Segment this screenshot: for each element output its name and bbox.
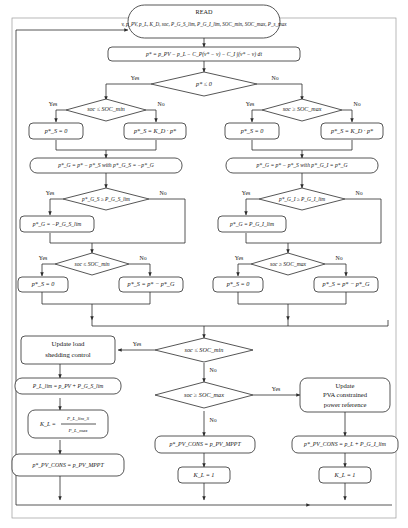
decision-soc-min-left-label: soc ≤ SOC_min: [87, 106, 125, 112]
node-pg-lim-right[interactable]: p*_G = P_G_I_lim: [218, 216, 286, 232]
node-ps-zero-right-2[interactable]: p*_S = 0: [213, 277, 263, 292]
node-ps-diff-right-2[interactable]: p*_S = p* − p*_G: [314, 277, 378, 292]
update-pva-line1: Update: [335, 382, 354, 389]
node-ps-kd-left[interactable]: p*_S = K_D · p*: [124, 123, 186, 139]
node-ps-diff-left-2[interactable]: p*_S = p* − p*_G: [119, 277, 183, 292]
pg-lim-left-text: p*_G = −P_G_S_lim: [32, 221, 82, 227]
decision-soc-min-bottom-label: soc ≤ SOC_min: [185, 346, 224, 353]
node-pg-lim-left[interactable]: p*_G = −P_G_S_lim: [20, 216, 94, 232]
pl-lim-text: P_L_lim = p_PV + P_G_S_lim: [32, 383, 104, 389]
decision-soc-max-right-2-label: soc ≥ SOC_max: [270, 261, 307, 267]
update-pva-line3: power reference: [324, 401, 367, 408]
label-yes-pg-lim-right: Yes: [242, 190, 251, 196]
decision-pstar-le-zero[interactable]: p* ≤ 0: [151, 72, 257, 96]
node-update-load-shedding[interactable]: Update load shedding control: [21, 336, 115, 364]
decision-soc-min-left-2-label: soc ≤ SOC_min: [74, 261, 109, 267]
ps-zero-right-2-text: p*_S = 0: [226, 280, 251, 287]
decision-soc-min-left-2[interactable]: soc ≤ SOC_min: [55, 253, 129, 275]
read-title: READ: [196, 8, 213, 15]
node-kl-one-mid[interactable]: K_L = 1: [178, 467, 230, 483]
decision-pg-lim-right[interactable]: p*_G_I ≥ P_G_I_lim: [259, 188, 345, 210]
label-no-soc-max-right-2: No: [335, 255, 342, 261]
ps-zero-left-text: p*_S = 0: [44, 127, 69, 134]
label-no-pg-lim-right: No: [355, 190, 362, 196]
update-load-line2: shedding control: [45, 351, 91, 358]
node-ps-zero-right[interactable]: p*_S = 0: [225, 123, 279, 139]
ps-zero-right-text: p*_S = 0: [240, 127, 265, 134]
node-kl-fraction[interactable]: K_L = P_L_lim_S P_L_max: [28, 410, 108, 438]
label-no-soc-max-right: No: [353, 101, 360, 107]
kl-one-mid-text: K_L = 1: [193, 471, 215, 478]
label-yes-pstar: Yes: [131, 75, 140, 81]
ps-kd-left-text: p*_S = K_D · p*: [133, 127, 177, 134]
kl-lhs: K_L =: [39, 421, 56, 427]
kl-numerator: P_L_lim_S: [66, 416, 90, 421]
decision-soc-max-bottom-label: soc ≥ SOC_max: [184, 391, 224, 398]
update-load-line1: Update load: [51, 340, 85, 347]
label-no-soc-min-left: No: [157, 101, 164, 107]
ppv-cons-right-text: p*_PV_CONS = p_L + P_G_I_lim: [303, 441, 386, 447]
label-no-soc-min-left-2: No: [139, 255, 146, 261]
label-yes-pg-lim-left: Yes: [46, 190, 55, 196]
node-ps-zero-left-2[interactable]: p*_S = 0: [18, 277, 68, 292]
decision-pg-lim-left-label: p*_G_S ≥ P_G_S_lim: [81, 196, 130, 202]
label-no-soc-min-bottom: No: [209, 367, 216, 373]
ps-diff-left-2-text: p*_S = p* − p*_G: [127, 280, 175, 287]
decision-soc-max-right-label: soc ≥ SOC_max: [283, 106, 322, 112]
ps-zero-left-2-text: p*_S = 0: [31, 280, 56, 287]
decision-soc-max-bottom[interactable]: soc ≥ SOC_max: [155, 382, 253, 408]
node-ppv-cons-left[interactable]: p*_PV_CONS = p_PV_MPPT: [12, 454, 124, 476]
decision-pstar-label: p* ≤ 0: [195, 80, 213, 87]
flowchart-canvas: READ v, p_PV, p_L, K_D, soc, P_G_S_lim, …: [0, 0, 408, 528]
label-yes-soc-min-left-2: Yes: [39, 255, 48, 261]
node-kl-one-right[interactable]: K_L = 1: [319, 467, 371, 483]
node-pstar-equation[interactable]: p* = p_PV − p_L − C_P(v* − v) − C_I ∫(v*…: [108, 47, 300, 61]
kl-one-right-text: K_L = 1: [334, 471, 356, 478]
ppv-cons-mid-text: p*_PV_CONS = p_PV_MPPT: [168, 441, 241, 447]
label-yes-soc-max-right: Yes: [246, 101, 255, 107]
label-no-pstar: No: [271, 75, 278, 81]
decision-pg-lim-right-label: p*_G_I ≥ P_G_I_lim: [278, 196, 325, 202]
node-update-pva[interactable]: Update PVA constrained power reference: [300, 378, 390, 412]
pg-right-text: p*_G = p* − p*_S with p*_G_I = p*_G: [256, 162, 348, 168]
ps-kd-right-text: p*_S = K_D · p*: [330, 127, 374, 134]
ps-diff-right-2-text: p*_S = p* − p*_G: [322, 280, 370, 287]
decision-pg-lim-left[interactable]: p*_G_S ≥ P_G_S_lim: [63, 188, 149, 210]
pg-left-text: p*_G = p* − p*_S with p*_G_S = −p*_G: [57, 162, 154, 168]
decision-soc-min-left[interactable]: soc ≤ SOC_min: [66, 99, 146, 121]
label-no-pg-lim-left: No: [159, 190, 166, 196]
label-yes-soc-max-right-2: Yes: [235, 255, 244, 261]
node-ps-kd-right[interactable]: p*_S = K_D · p*: [321, 123, 383, 139]
pg-lim-right-text: p*_G = P_G_I_lim: [229, 221, 274, 227]
label-yes-soc-min-left: Yes: [49, 101, 58, 107]
pstar-text: p* = p_PV − p_L − C_P(v* − v) − C_I ∫(v*…: [145, 51, 262, 58]
label-yes-soc-max-bottom: Yes: [272, 386, 281, 392]
update-pva-line2: PVA constrained: [323, 391, 368, 398]
node-ppv-cons-mid[interactable]: p*_PV_CONS = p_PV_MPPT: [155, 436, 255, 453]
decision-soc-max-right-2[interactable]: soc ≥ SOC_max: [251, 253, 325, 275]
node-pg-left[interactable]: p*_G = p* − p*_S with p*_G_S = −p*_G: [30, 158, 182, 173]
node-ps-zero-left[interactable]: p*_S = 0: [29, 123, 83, 139]
label-no-soc-max-bottom: No: [209, 417, 216, 423]
decision-soc-max-right[interactable]: soc ≥ SOC_max: [262, 99, 342, 121]
node-ppv-cons-right[interactable]: p*_PV_CONS = p_L + P_G_I_lim: [292, 436, 398, 453]
ppv-cons-left-text: p*_PV_CONS = p_PV_MPPT: [31, 462, 104, 468]
decision-soc-min-bottom[interactable]: soc ≤ SOC_min: [155, 338, 253, 362]
read-vars: v, p_PV, p_L, K_D, soc, P_G_S_lim, P_G_I…: [121, 21, 287, 27]
node-pg-right[interactable]: p*_G = p* − p*_S with p*_G_I = p*_G: [226, 158, 378, 173]
kl-denominator: P_L_max: [67, 428, 88, 433]
node-pl-lim[interactable]: P_L_lim = p_PV + P_G_S_lim: [15, 378, 121, 394]
label-yes-soc-min-bottom: Yes: [133, 341, 142, 347]
node-read[interactable]: READ v, p_PV, p_L, K_D, soc, P_G_S_lim, …: [121, 5, 287, 38]
